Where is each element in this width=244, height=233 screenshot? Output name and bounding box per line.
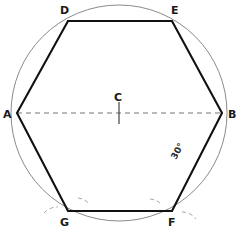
vertex-label-b: B xyxy=(228,108,236,121)
vertex-label-e: E xyxy=(171,4,179,17)
arc-mark-f-upper-left xyxy=(150,199,162,205)
center-label-c: C xyxy=(114,91,122,104)
arc-mark-g-upper-right xyxy=(78,198,90,205)
vertex-label-d: D xyxy=(60,4,69,17)
vertex-label-f: F xyxy=(168,216,176,229)
arc-mark-g-lower-left xyxy=(44,207,58,213)
arc-mark-f-lower-right xyxy=(182,212,196,219)
angle-annotation: 30° xyxy=(169,141,186,161)
diagram-canvas: A D E B F G C 30° xyxy=(0,0,244,233)
geometry-figure: A D E B F G C 30° xyxy=(0,0,244,233)
vertex-label-a: A xyxy=(3,108,12,121)
vertex-label-g: G xyxy=(60,216,69,229)
